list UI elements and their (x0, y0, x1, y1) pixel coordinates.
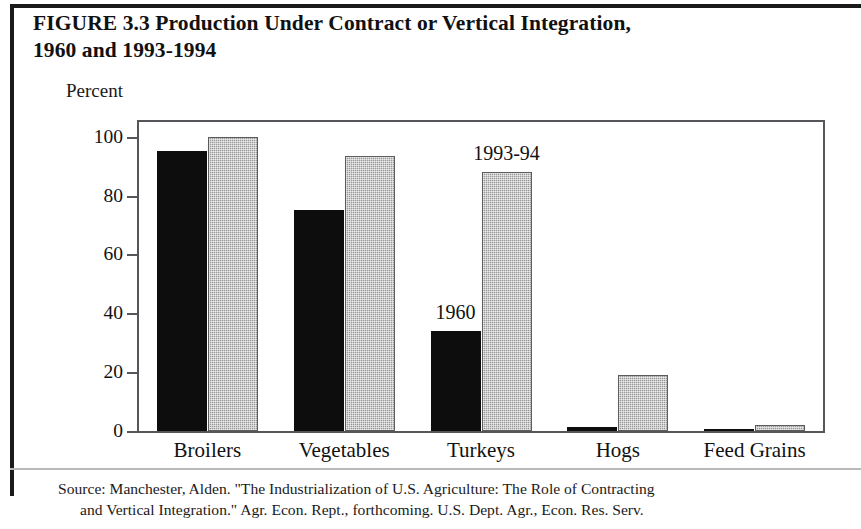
bar-vegetables-1960 (294, 210, 344, 431)
y-axis-tick-label: 0 (113, 420, 123, 442)
source-note-line1: Source: Manchester, Alden. "The Industri… (58, 480, 655, 497)
y-axis-tick-mark (127, 196, 139, 198)
figure-container: FIGURE 3.3 Production Under Contract or … (0, 0, 861, 529)
left-rule (10, 4, 14, 496)
figure-title-line2: 1960 and 1993-1994 (33, 37, 833, 64)
bar-group (567, 375, 668, 431)
x-axis-label-turkeys: Turkeys (447, 438, 515, 463)
bar-group (157, 137, 258, 431)
y-axis-tick-label: 100 (94, 125, 123, 147)
bar-broilers-1960 (157, 151, 207, 431)
bar-feed-grains-1993-94 (755, 425, 805, 431)
y-axis-tick-mark (127, 372, 139, 374)
x-axis-label-broilers: Broilers (174, 438, 242, 463)
bar-group (294, 156, 395, 431)
plot-inner: 02040608010019601993-94 (139, 122, 823, 431)
source-note: Source: Manchester, Alden. "The Industri… (58, 478, 848, 520)
bar-turkeys-1960 (431, 331, 481, 431)
plot-area: 02040608010019601993-94 (137, 120, 825, 433)
source-note-line2: and Vertical Integration." Agr. Econ. Re… (58, 499, 848, 520)
x-axis-label-hogs: Hogs (596, 438, 640, 463)
bar-hogs-1993-94 (618, 375, 668, 431)
y-axis-tick-mark (127, 313, 139, 315)
bar-vegetables-1993-94 (345, 156, 395, 431)
y-axis-tick-label: 80 (104, 184, 124, 206)
bar-hogs-1960 (567, 427, 617, 431)
y-axis-tick-label: 40 (104, 302, 124, 324)
y-axis-tick-label: 20 (104, 361, 124, 383)
bottom-divider-rule (10, 468, 861, 470)
y-axis-tick-mark (127, 254, 139, 256)
y-axis-unit-label: Percent (66, 80, 123, 102)
x-axis-label-vegetables: Vegetables (299, 438, 390, 463)
series-annotation-1960: 1960 (436, 301, 476, 324)
figure-title: FIGURE 3.3 Production Under Contract or … (33, 10, 833, 64)
bar-turkeys-1993-94 (482, 172, 532, 431)
figure-title-line1: FIGURE 3.3 Production Under Contract or … (33, 11, 631, 35)
bar-feed-grains-1960 (704, 429, 754, 431)
y-axis-tick-mark (127, 137, 139, 139)
top-rule (10, 4, 861, 8)
series-annotation-1993-94: 1993-94 (473, 142, 540, 165)
bar-group (704, 425, 805, 431)
x-axis-label-feed-grains: Feed Grains (704, 438, 806, 463)
y-axis-tick-mark (127, 431, 139, 433)
bar-broilers-1993-94 (208, 137, 258, 431)
y-axis-tick-label: 60 (104, 243, 124, 265)
